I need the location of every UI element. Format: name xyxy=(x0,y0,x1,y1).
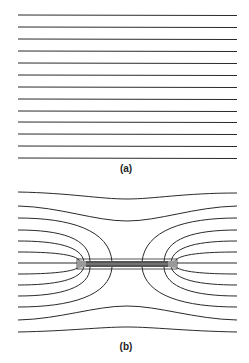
panel-a-field-lines xyxy=(18,15,237,159)
panel-a-label: (a) xyxy=(106,163,146,174)
conductor-bar xyxy=(77,259,177,269)
figure-canvas xyxy=(0,0,249,363)
panel-b-label: (b) xyxy=(106,341,146,352)
